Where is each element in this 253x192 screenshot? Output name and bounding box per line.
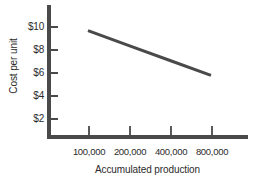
data-series-line — [88, 31, 211, 76]
learning-curve-chart: $10 $8 $6 $4 $2 100,000 200,000 400,000 … — [0, 0, 253, 192]
plot-area — [0, 0, 253, 192]
